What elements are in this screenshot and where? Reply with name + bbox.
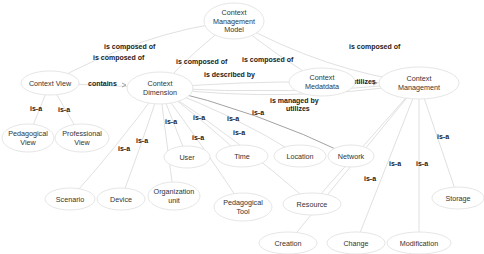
edge-label-cd-cm-utilizes: utilizes	[286, 105, 310, 112]
context-management-diagram: is composed ofis composed ofis composed …	[0, 0, 484, 254]
edge-label-cmm-cd-b: is composed of	[176, 58, 228, 66]
node-prv[interactable]: ProfessionalView	[55, 124, 109, 152]
node-time[interactable]: Time	[216, 145, 268, 167]
node-dev[interactable]: Device	[97, 188, 145, 210]
edge-label-cd-user: is-a	[193, 114, 205, 121]
node-scen[interactable]: Scenario	[45, 188, 95, 210]
node-user[interactable]: User	[164, 146, 210, 168]
edge-label-cmm-cv: is composed of	[104, 43, 156, 51]
edge-label-cd-cmd: is described by	[204, 71, 255, 79]
node-crea[interactable]: Creation	[259, 232, 317, 254]
edge-label-cd-org: is-a	[165, 118, 177, 125]
node-label: Change	[343, 239, 368, 248]
node-chg[interactable]: Change	[327, 232, 385, 254]
node-cv[interactable]: Context View	[21, 71, 79, 95]
node-label: Medatdata	[305, 82, 339, 91]
node-label: Resource	[297, 200, 328, 209]
node-cd[interactable]: ContextDimension	[127, 72, 193, 104]
node-label: Dimension	[143, 88, 177, 97]
node-label: unit	[168, 196, 180, 205]
edge-label-cv-cd: contains	[88, 80, 117, 87]
edge-label-cv-prv: is-a	[58, 106, 70, 113]
node-label: Device	[110, 195, 132, 204]
node-loc[interactable]: Location	[274, 145, 326, 167]
edge-label-cd-ptool: is-a	[192, 134, 204, 141]
edge-cm-res	[312, 83, 419, 204]
node-pv[interactable]: PedagogicalView	[2, 124, 54, 152]
node-ptool[interactable]: PedagogicalTool	[214, 193, 272, 221]
edge-label-cmm-cd-a: is composed of	[93, 54, 145, 62]
edge-label-cd-loc: is-a	[252, 109, 264, 116]
node-cmm[interactable]: ContextManagementModel	[204, 3, 264, 39]
node-label: Model	[224, 25, 244, 34]
node-res[interactable]: Resource	[283, 193, 341, 215]
node-label: Tool	[236, 207, 250, 216]
edge-label-cd-dev: is-a	[136, 137, 148, 144]
node-label: Time	[234, 152, 250, 161]
edge-label-cmm-cm: is composed of	[349, 43, 401, 51]
node-label: Management	[398, 83, 440, 92]
node-cmd[interactable]: ContextMedatdata	[289, 68, 355, 96]
node-cm[interactable]: ContextManagement	[379, 67, 459, 99]
edge-label-cm-chg: is-a	[416, 160, 428, 167]
edge-label-cmd-cm: utilizes	[352, 78, 376, 85]
node-net[interactable]: Network	[328, 145, 374, 167]
edge-label-cd-scen: is-a	[118, 145, 130, 152]
edge-label-cd-res: is-a	[233, 129, 245, 136]
node-label: Creation	[274, 239, 301, 248]
node-label: View	[20, 138, 36, 147]
node-label: Storage	[445, 194, 470, 203]
node-label: Location	[286, 152, 313, 161]
node-mod[interactable]: Modification	[387, 232, 451, 254]
node-label: Scenario	[56, 195, 84, 204]
edge-label-cm-crea: is-a	[389, 160, 401, 167]
node-stor[interactable]: Storage	[432, 187, 484, 209]
node-label: Context View	[29, 79, 72, 88]
edge-label-cd-time: is-a	[227, 115, 239, 122]
edge-cm-stor	[419, 83, 458, 198]
edge-label-cm-mod: is-a	[364, 175, 376, 182]
node-label: User	[179, 153, 195, 162]
node-label: Modification	[400, 239, 438, 248]
edge-label-cm-stor: is-a	[437, 133, 449, 140]
edge-label-cd-cm-managed: is managed by	[270, 97, 319, 105]
node-label: View	[74, 138, 90, 147]
node-label: Network	[338, 152, 365, 161]
edge-label-cv-pv: is-a	[30, 105, 42, 112]
edge-label-cmm-cmd: is composed of	[242, 56, 294, 64]
node-org[interactable]: Organizationunit	[148, 182, 200, 210]
